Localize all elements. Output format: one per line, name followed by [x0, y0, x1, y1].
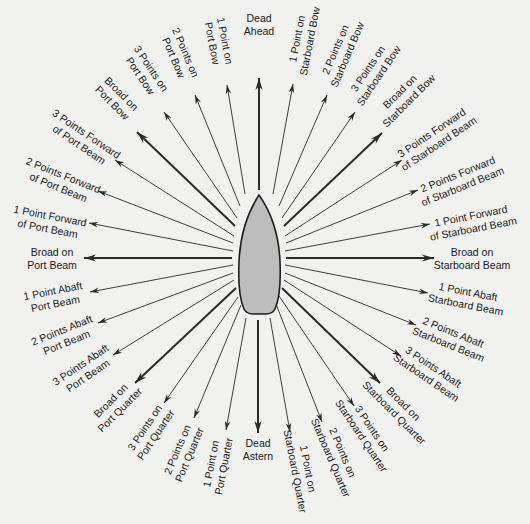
bearing-line — [115, 160, 234, 236]
bearing-label-broad-on-port-quarter: Broad onPort Quarter — [86, 375, 145, 434]
bearing-arrow-broad-on-starboard-quarter — [282, 288, 380, 383]
bearing-label-1-point-on-port-quarter: 1 Point onPort Quarter — [199, 434, 235, 496]
bearing-arrow-2-points-forward-of-port-beam — [98, 191, 233, 243]
bearing-line — [285, 265, 428, 293]
bearing-line — [113, 280, 234, 355]
bearing-line — [276, 304, 322, 422]
arrowhead-icon — [164, 112, 171, 121]
bearing-label-1-point-on-port-bow: 1 Point onPort Bow — [202, 16, 236, 67]
bearing-line — [282, 288, 380, 383]
bearing-arrow-1-point-forward-of-starboard-beam — [285, 223, 430, 251]
bearing-arrow-broad-on-port-beam — [84, 254, 232, 261]
bearing-label-line: Port Beam — [27, 259, 77, 271]
arrowhead-icon — [113, 348, 122, 355]
bearing-line — [98, 191, 233, 243]
bearing-arrow-3-points-on-starboard-bow — [282, 112, 355, 218]
bearing-arrow-broad-on-starboard-bow — [284, 133, 382, 226]
bearing-line — [135, 288, 236, 383]
bearing-label-dead-ahead: DeadAhead — [244, 12, 275, 37]
bearing-arrow-1-point-forward-of-port-beam — [89, 222, 233, 251]
bearing-arrow-2-points-abaft-starboard-beam — [285, 273, 416, 325]
bearing-arrow-2-points-on-starboard-bow — [279, 95, 327, 206]
bearing-label-3-points-forward-of-starboard-beam: 3 Points Forwardof Starboard Beam — [391, 103, 478, 173]
bearing-arrow-3-points-abaft-starboard-beam — [284, 280, 401, 356]
bearing-arrow-3-points-forward-of-port-beam — [115, 160, 234, 236]
bearing-label-broad-on-port-beam: Broad onPort Beam — [27, 246, 77, 271]
bearing-line — [284, 280, 401, 356]
relative-bearing-diagram: DeadAhead1 Point onStarboard Bow2 Points… — [0, 0, 530, 524]
bearing-arrow-broad-on-starboard-beam — [286, 254, 434, 261]
bearing-label-line: Dead — [245, 437, 270, 449]
bearing-label-line: Astern — [243, 450, 274, 462]
bearing-line — [285, 273, 416, 325]
bearing-label-1-point-on-starboard-quarter: 1 Point onStarboard Quarter — [282, 426, 323, 514]
bearing-line — [164, 297, 238, 403]
bearing-line — [227, 85, 245, 194]
bearing-label-2-points-on-port-quarter: 2 Points onPort Quarter — [160, 420, 206, 483]
bearing-arrow-2-points-on-starboard-quarter — [276, 304, 322, 422]
bearing-label-2-points-on-port-bow: 2 Points onPort Bow — [158, 26, 202, 84]
bearing-label-line: Broad on — [451, 246, 494, 258]
bearing-line — [282, 112, 355, 218]
bearing-label-1-point-abaft-starboard-beam: 1 Point AbaftStarboard Beam — [427, 278, 507, 317]
bearing-arrow-2-points-forward-of-starboard-beam — [286, 190, 418, 243]
bearing-arrow-1-point-abaft-port-beam — [90, 265, 233, 293]
ship-hull — [239, 195, 281, 314]
bearing-label-1-point-forward-of-port-beam: 1 Point Forwardof Port Beam — [10, 203, 88, 242]
bearing-line — [98, 273, 233, 323]
bearing-arrow-broad-on-port-quarter — [135, 288, 236, 383]
arrowhead-icon — [348, 112, 355, 121]
bearing-line — [90, 265, 233, 292]
bearing-label-1-point-abaft-port-beam: 1 Point AbaftPort Beam — [22, 279, 85, 315]
bearing-label-2-points-forward-of-port-beam: 2 Points Forwardof Port Beam — [20, 155, 103, 208]
bearing-label-1-point-on-starboard-bow: 1 Point onStarboard Bow — [284, 3, 322, 76]
bearing-arrow-3-points-forward-of-starboard-beam — [285, 160, 402, 236]
bearing-label-broad-on-port-bow: Broad onPort Bow — [93, 74, 141, 122]
bearing-line — [285, 224, 430, 251]
bearing-line — [286, 190, 418, 243]
bearing-line — [89, 223, 233, 251]
bearing-arrow-3-points-on-port-quarter — [164, 297, 238, 403]
bearing-line — [270, 318, 290, 432]
arrowhead-icon — [115, 160, 124, 167]
bearing-label-dead-astern: DeadAstern — [243, 437, 274, 462]
bearing-label-broad-on-starboard-beam: Broad onStarboard Beam — [434, 246, 511, 271]
bearing-line — [279, 296, 354, 406]
bearing-line — [285, 160, 402, 236]
bearing-label-line: Starboard Beam — [434, 259, 511, 271]
bearing-arrow-3-points-on-port-bow — [164, 112, 237, 218]
bearing-label-line: Broad on — [31, 246, 74, 258]
bearing-label-line: Dead — [246, 12, 271, 24]
bearing-arrow-3-points-abaft-port-beam — [113, 280, 234, 355]
bearing-arrow-1-point-on-port-quarter — [225, 318, 246, 430]
bearing-label-2-points-forward-of-starboard-beam: 2 Points Forwardof Starboard Beam — [414, 152, 505, 208]
bearing-line — [284, 133, 382, 226]
bearing-label-line: Ahead — [244, 25, 275, 37]
bearing-label-1-point-forward-of-starboard-beam: 1 Point Forwardof Starboard Beam — [426, 201, 518, 242]
bearing-line — [164, 112, 237, 218]
bearing-arrow-1-point-abaft-starboard-beam — [285, 265, 428, 294]
bearing-line — [279, 95, 327, 206]
bearing-arrow-3-points-on-starboard-quarter — [279, 296, 354, 406]
bearing-arrow-dead-ahead — [255, 78, 262, 190]
bearing-arrow-2-points-abaft-port-beam — [98, 273, 233, 323]
bearing-label-3-points-forward-of-port-beam: 3 Points Forwardof Port Beam — [43, 106, 123, 171]
bearing-arrow-dead-astern — [254, 320, 261, 433]
arrowhead-icon — [164, 394, 171, 403]
bearing-line — [273, 84, 293, 194]
